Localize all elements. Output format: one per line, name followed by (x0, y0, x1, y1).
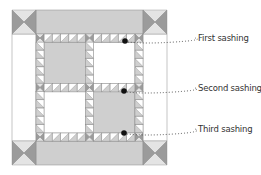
bottom-border (36, 141, 143, 165)
quilt-block-white (44, 92, 86, 134)
left-border (12, 34, 36, 141)
top-border (36, 10, 143, 34)
quilt-block-white (94, 42, 136, 84)
quilt-block-gray (94, 92, 136, 134)
callout-dot (122, 38, 128, 44)
callout-dot (121, 130, 127, 136)
quilt-block-gray (44, 42, 86, 84)
label-second-sashing: Second sashing (198, 83, 261, 93)
label-third-sashing: Third sashing (198, 124, 252, 134)
right-border (143, 34, 167, 141)
label-first-sashing: First sashing (198, 33, 249, 43)
callout-dot (121, 88, 127, 94)
